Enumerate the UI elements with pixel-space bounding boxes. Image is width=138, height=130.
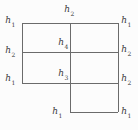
label-base: h bbox=[121, 44, 127, 54]
label-subscript: 1 bbox=[58, 111, 62, 118]
label-subscript: 1 bbox=[127, 20, 131, 27]
label-h3-low-center: h3 bbox=[58, 69, 68, 80]
label-subscript: 2 bbox=[11, 50, 15, 57]
label-subscript: 2 bbox=[127, 49, 131, 56]
label-h1-bottom-right: h1 bbox=[121, 107, 131, 118]
label-h2-top-center: h2 bbox=[64, 5, 74, 16]
label-base: h bbox=[64, 4, 70, 14]
height-label-diagram: h1 h2 h1 h4 h2 h2 h3 h1 h2 h1 h1 bbox=[0, 0, 138, 130]
label-h1-low-left: h1 bbox=[5, 74, 15, 85]
label-subscript: 1 bbox=[127, 111, 131, 118]
label-subscript: 2 bbox=[70, 9, 74, 16]
label-subscript: 1 bbox=[11, 78, 15, 85]
label-base: h bbox=[121, 15, 127, 25]
label-base: h bbox=[58, 68, 64, 78]
label-subscript: 2 bbox=[127, 78, 131, 85]
label-base: h bbox=[5, 45, 11, 55]
label-h2-mid-left: h2 bbox=[5, 46, 15, 57]
label-h4-mid-center: h4 bbox=[58, 38, 68, 49]
label-subscript: 4 bbox=[64, 42, 68, 49]
label-base: h bbox=[121, 73, 127, 83]
label-h2-low-right: h2 bbox=[121, 74, 131, 85]
label-h1-top-right: h1 bbox=[121, 16, 131, 27]
label-base: h bbox=[5, 15, 11, 25]
label-base: h bbox=[121, 106, 127, 116]
label-h2-mid-right: h2 bbox=[121, 45, 131, 56]
label-subscript: 3 bbox=[64, 73, 68, 80]
label-base: h bbox=[5, 73, 11, 83]
label-h1-bottom-center: h1 bbox=[52, 107, 62, 118]
label-h1-top-left: h1 bbox=[5, 16, 15, 27]
label-subscript: 1 bbox=[11, 20, 15, 27]
label-base: h bbox=[52, 106, 58, 116]
label-base: h bbox=[58, 37, 64, 47]
grid-lines bbox=[0, 0, 138, 130]
